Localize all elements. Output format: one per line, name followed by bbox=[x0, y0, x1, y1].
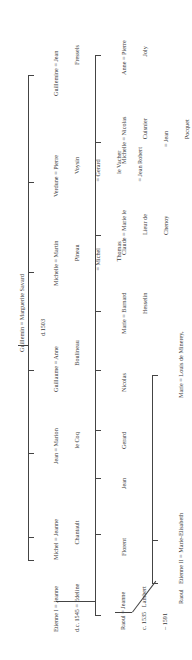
gen2-trunk bbox=[28, 75, 29, 560]
gen3-tick-anne bbox=[95, 55, 101, 56]
person-guillemine: Guillemine = Jean Fressels bbox=[38, 45, 87, 96]
person-guillaume: Guillaume = Anne Boulineau bbox=[38, 340, 87, 392]
gen2-tick-etienne1 bbox=[28, 560, 34, 561]
person-raoul-gen4: Raoul bbox=[163, 589, 191, 604]
person-anne: Anne = Pierre Joly bbox=[106, 40, 155, 75]
etienne1-descent bbox=[56, 601, 95, 602]
gen3-tick-marie bbox=[95, 311, 101, 312]
gen2-tick-verdune bbox=[28, 182, 34, 183]
gen3-tick-nicolas bbox=[95, 370, 101, 371]
person-jean-gen3: Jean bbox=[106, 478, 134, 489]
gen4-tick-marie2 bbox=[152, 375, 158, 376]
gen3-tick-raoul bbox=[95, 615, 101, 616]
person-etienne-i: Etienne I = Jeanne d.c. 1545 = Edeline bbox=[38, 584, 87, 632]
person-nicolas: Nicolas bbox=[106, 373, 134, 392]
gen2-tick-guillaume bbox=[28, 370, 34, 371]
gen3-tick-claude bbox=[95, 235, 101, 236]
gen2-tick-jean bbox=[28, 453, 34, 454]
gen3-tick-gerard bbox=[95, 430, 101, 431]
gen4-tick-etienne2 bbox=[152, 540, 158, 541]
person-michel: Michel = Jeanne Chantault bbox=[38, 519, 87, 560]
person-jean: Jean = Marion le Coq bbox=[38, 428, 87, 464]
gen3-trunk bbox=[95, 55, 96, 615]
root-couple-names: Guillemin = Marguerite Savard bbox=[18, 274, 25, 352]
person-michelle-gen3: Michelle = Nicolas Cuisnier = Jean Pocqu… bbox=[106, 117, 192, 164]
person-marie-gen4: Marie = Louis de Minerey, sieur de la Gr… bbox=[163, 318, 192, 398]
root-connector bbox=[18, 345, 28, 346]
person-marie: Marie = Barnard Hesselin bbox=[106, 293, 155, 334]
person-florent: Florent bbox=[106, 538, 134, 556]
gen3-tick-michelle2 bbox=[95, 142, 101, 143]
gen4-trunk bbox=[152, 375, 153, 583]
gen2-tick-michelle bbox=[28, 272, 34, 273]
gen3-tick-florent bbox=[95, 534, 101, 535]
person-claude: Claude = Marie le Lieur de Chenoy bbox=[106, 210, 176, 255]
gen2-tick-michel bbox=[28, 537, 34, 538]
raoul-descent-a bbox=[115, 612, 132, 613]
gen4-tick-raoul2 bbox=[152, 583, 158, 584]
person-gerard: Gerard bbox=[106, 432, 134, 449]
gen2-tick-guillemine bbox=[28, 75, 34, 76]
gen3-tick-jean bbox=[95, 478, 101, 479]
person-etienne-ii: Etienne II = Marie-Elisabeth 1560 – Chap… bbox=[163, 513, 192, 584]
